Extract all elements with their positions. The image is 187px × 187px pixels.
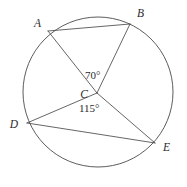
diagram-canvas: A B C D E 70° 115° bbox=[0, 0, 187, 187]
radius-segment-cb bbox=[97, 24, 130, 93]
angle-label-acb: 70° bbox=[85, 69, 100, 81]
point-label-e: E bbox=[162, 141, 170, 153]
point-label-d: D bbox=[9, 118, 19, 130]
circle-outline bbox=[23, 17, 173, 167]
angle-label-dce: 115° bbox=[79, 102, 100, 114]
point-label-b: B bbox=[137, 7, 144, 19]
radius-segment-ca bbox=[48, 31, 97, 93]
point-label-c: C bbox=[80, 88, 88, 100]
circle-geometry-diagram: A B C D E 70° 115° bbox=[0, 0, 187, 187]
point-label-a: A bbox=[33, 17, 42, 29]
